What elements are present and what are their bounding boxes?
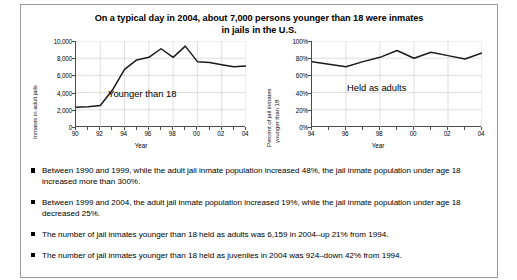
bullet-list: Between 1990 and 1999, while the adult j… [21,165,499,270]
series-annotation-held-as-adults: Held as adults [347,82,406,93]
x-tick-mark [87,127,88,130]
x-tick-label: 94 [308,130,315,137]
y-tick-label: 60% [296,72,308,79]
y-tick-label: 40% [296,89,308,96]
x-axis-title-right-text: Year [372,142,385,149]
y-tick-label: 80% [296,55,308,62]
x-tick-label: 90 [72,130,79,137]
y-tick-label: 6,000 [57,72,72,79]
bullet-square-icon [31,232,35,236]
x-tick-mark [362,127,363,130]
x-tick-label: 92 [96,130,103,137]
bullet-item: The number of jail inmates younger than … [31,229,485,240]
x-tick-mark [396,127,397,130]
x-axis-tick-labels-left: 9092949698000204 [23,130,259,140]
bullet-text: The number of jail inmates younger than … [42,230,388,239]
bullet-item: Between 1990 and 1999, while the adult j… [31,165,485,187]
y-tick-label: 8,000 [57,55,72,62]
bullet-square-icon [31,168,35,172]
line-chart-inmates [76,41,246,127]
charts-row: Inmates in adult jails 02,0004,0006,0008… [21,35,499,163]
x-tick-label: 98 [169,130,176,137]
figure-title: On a typical day in 2004, about 7,000 pe… [21,5,497,36]
plot-area-left [75,41,245,127]
x-tick-mark [328,127,329,130]
x-tick-label: 02 [217,130,224,137]
x-tick-label: 04 [242,130,249,137]
x-tick-label: 94 [120,130,127,137]
x-tick-mark [464,127,465,130]
bullet-text: Between 1990 and 1999, while the adult j… [42,166,461,186]
bullet-square-icon [31,200,35,204]
x-tick-label: 04 [478,130,485,137]
x-axis-title-right: Year [259,142,497,149]
x-axis-tick-labels-right: 949698000204 [259,130,497,140]
chart-percent-held-as-adults: Percent of jail inmates younger than 18 … [259,35,497,163]
x-tick-label: 00 [410,130,417,137]
bullet-item: The number of jail inmates younger than … [31,250,485,261]
y-tick-label: 100% [292,38,308,45]
figure-title-line-2: in jails in the U.S. [221,25,296,35]
y-tick-label: 2,000 [57,106,72,113]
series-annotation-younger-than-18: Younger than 18 [108,88,176,99]
bullet-item: Between 1999 and 2004, the adult jail in… [31,197,485,219]
x-axis-title-left-text: Year [135,142,148,149]
x-tick-mark [209,127,210,130]
y-tick-label: 10,000 [54,38,72,45]
y-tick-label: 20% [296,106,308,113]
y-tick-label: 4,000 [57,89,72,96]
x-tick-mark [160,127,161,130]
bullet-text: The number of jail inmates younger than … [42,251,402,260]
bullet-square-icon [31,253,35,257]
x-tick-mark [111,127,112,130]
x-tick-label: 96 [144,130,151,137]
x-tick-mark [184,127,185,130]
figure-panel: On a typical day in 2004, about 7,000 pe… [20,4,498,278]
chart-inmates-in-adult-jails: Inmates in adult jails 02,0004,0006,0008… [23,35,259,163]
bullet-text: Between 1999 and 2004, the adult jail in… [42,198,461,218]
x-tick-label: 98 [376,130,383,137]
x-tick-mark [430,127,431,130]
x-axis-title-left: Year [23,142,259,149]
x-tick-mark [136,127,137,130]
x-tick-mark [233,127,234,130]
x-tick-label: 02 [444,130,451,137]
figure-title-line-1: On a typical day in 2004, about 7,000 pe… [95,13,424,23]
x-tick-label: 00 [193,130,200,137]
x-tick-label: 96 [342,130,349,137]
